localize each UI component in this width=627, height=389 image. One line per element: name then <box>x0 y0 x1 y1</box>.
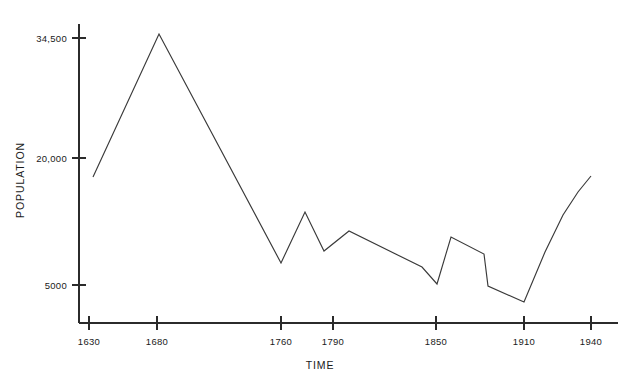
x-tick-label-1680: 1680 <box>146 336 168 347</box>
x-axis-title: TIME <box>306 359 335 371</box>
population-data-line <box>93 34 591 302</box>
y-axis-title: POPULATION <box>14 142 26 218</box>
y-tick-label-20000: 20,000 <box>36 153 67 164</box>
y-axis-tick-labels: 34,500 20,000 5000 <box>36 33 67 291</box>
chart-svg: 34,500 20,000 5000 1630 1680 1760 1790 1… <box>0 0 627 389</box>
x-axis-tick-labels: 1630 1680 1760 1790 1850 1910 1940 <box>78 336 602 347</box>
x-tick-label-1850: 1850 <box>425 336 447 347</box>
y-tick-label-34500: 34,500 <box>36 33 67 44</box>
y-tick-label-5000: 5000 <box>45 280 67 291</box>
x-tick-label-1760: 1760 <box>270 336 292 347</box>
x-tick-label-1630: 1630 <box>78 336 100 347</box>
x-tick-label-1910: 1910 <box>513 336 535 347</box>
population-time-line-chart: 34,500 20,000 5000 1630 1680 1760 1790 1… <box>0 0 627 389</box>
x-tick-label-1790: 1790 <box>322 336 344 347</box>
x-tick-label-1940: 1940 <box>580 336 602 347</box>
